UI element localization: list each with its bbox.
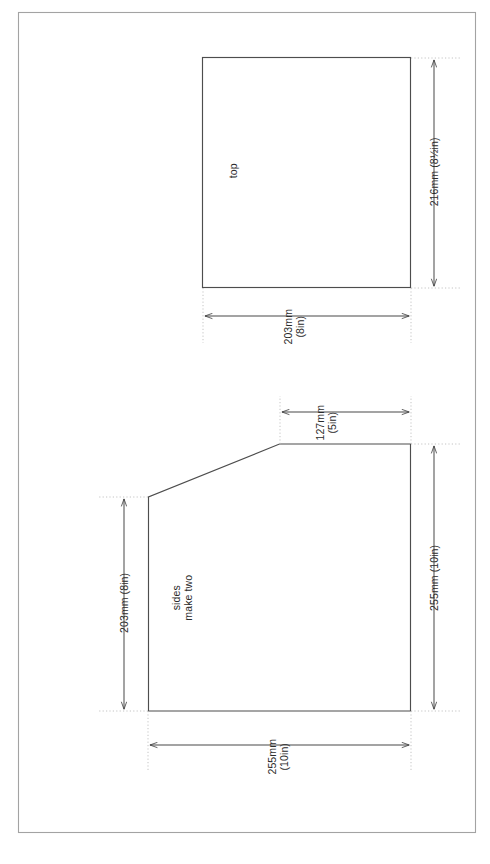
dimension-label-top-width: 203mm(8in) <box>283 284 307 370</box>
part-label-sides-line1: sides <box>170 585 182 610</box>
sides-top-extension-lines <box>280 396 411 444</box>
dimension-label-top-height: 216mm (8½in) <box>429 126 441 218</box>
top-width-extension-lines <box>203 288 411 343</box>
dimension-label-sides-top: 127mm(5in) <box>315 380 339 466</box>
dimension-label-sides-bottom-line2: (10in) <box>278 743 290 770</box>
dimension-label-sides-bottom-line1: 255mm <box>266 739 278 775</box>
dimension-label-sides-top-line1: 127mm <box>314 405 326 441</box>
dimension-label-sides-left: 203mm (8in) <box>119 557 131 649</box>
page-border <box>19 13 476 833</box>
dimension-label-sides-right: 255mm (10in) <box>429 532 441 624</box>
drawing-sheet: top 216mm (8½in) 203mm(8in) sidesmake tw… <box>0 0 490 864</box>
technical-drawing-canvas <box>0 0 490 864</box>
dimension-label-sides-top-line2: (5in) <box>326 412 338 434</box>
part-label-top: top <box>228 151 240 191</box>
part-label-sides: sidesmake two <box>171 555 195 641</box>
part-label-sides-line2: make two <box>182 575 194 621</box>
dimension-label-sides-bottom: 255mm(10in) <box>267 714 291 800</box>
dimension-label-top-width-line2: (8in) <box>294 316 306 338</box>
dimension-label-top-width-line1: 203mm <box>282 309 294 345</box>
